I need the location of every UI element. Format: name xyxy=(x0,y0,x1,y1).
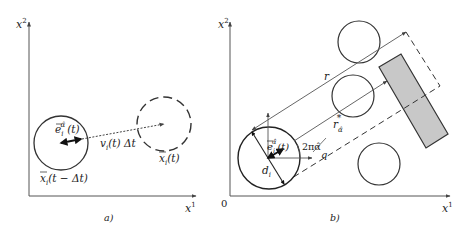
previous-position-label: xi(t − Δt) xyxy=(40,172,88,187)
r-label: r xyxy=(324,70,330,82)
current-position-label: xi(t) xyxy=(159,152,180,167)
other-agent-circle xyxy=(332,75,374,117)
figure: x2 x1 eiα̂(t) vi(t) Δt xi(t) xi(t − Δt) … xyxy=(0,0,472,235)
obstacle-rectangle xyxy=(379,54,448,148)
r-alpha-label: rα̂* xyxy=(333,113,343,134)
y-axis-label: x2 xyxy=(16,17,27,31)
panel-a: x2 x1 eiα̂(t) vi(t) Δt xi(t) xi(t − Δt) … xyxy=(16,17,196,223)
x-axis-label: x1 xyxy=(185,201,196,215)
panel-a-caption: a) xyxy=(104,212,114,223)
x-axis-label: x1 xyxy=(442,201,453,215)
y-axis-label: x2 xyxy=(218,17,229,31)
other-agent-circle xyxy=(358,143,400,185)
other-agent-circle xyxy=(338,21,380,63)
origin-label: 0 xyxy=(221,198,227,209)
panel-b-caption: b) xyxy=(330,212,340,223)
velocity-label: vi(t) Δt xyxy=(100,137,137,152)
d-label: di xyxy=(262,164,271,179)
direction-label: eiα̂(t) xyxy=(55,121,80,138)
panel-b: x2 x1 0 r rα̂* eiα̂(t) 2πα̂ q d xyxy=(218,17,453,223)
angle-label: 2πα̂ xyxy=(302,141,321,152)
direction-vector xyxy=(61,139,81,143)
q-label: q xyxy=(321,149,327,160)
